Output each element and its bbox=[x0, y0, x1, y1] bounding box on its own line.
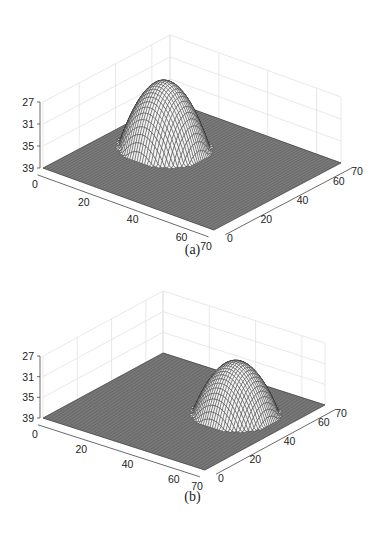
z-tick-label: 27 bbox=[22, 96, 34, 108]
z-tick-label: 39 bbox=[22, 162, 34, 174]
z-tick-label: 27 bbox=[22, 350, 34, 362]
z-tick-label: 31 bbox=[22, 118, 34, 130]
y-tick-label: 40 bbox=[284, 435, 296, 447]
x-tick-label: 60 bbox=[168, 473, 180, 485]
y-tick-label: 60 bbox=[318, 416, 330, 428]
x-tick-label: 20 bbox=[78, 196, 90, 208]
surface-plot-a: 27313539020406070020406070 bbox=[0, 0, 385, 265]
z-tick-label: 35 bbox=[22, 391, 34, 403]
z-tick-label: 39 bbox=[22, 412, 34, 424]
dome-mesh bbox=[115, 80, 214, 169]
y-tick-label: 70 bbox=[335, 407, 347, 419]
z-tick-label: 31 bbox=[22, 371, 34, 383]
x-tick-label: 20 bbox=[75, 443, 87, 455]
x-tick-label: 0 bbox=[32, 178, 38, 190]
y-tick-label: 60 bbox=[333, 175, 345, 187]
y-tick-label: 20 bbox=[260, 213, 272, 225]
y-tick-label: 70 bbox=[351, 165, 363, 177]
z-tick-label: 35 bbox=[22, 140, 34, 152]
y-tick-label: 40 bbox=[297, 194, 309, 206]
x-tick-label: 40 bbox=[127, 213, 139, 225]
x-tick-label: 40 bbox=[122, 458, 134, 470]
caption-a: (a) bbox=[0, 242, 385, 258]
x-tick-label: 0 bbox=[32, 428, 38, 440]
y-tick-label: 20 bbox=[249, 453, 261, 465]
panel-a: 27313539020406070020406070 (a) bbox=[0, 0, 385, 265]
y-tick-label: 0 bbox=[218, 472, 224, 484]
caption-b: (b) bbox=[0, 489, 385, 505]
panel-b: 27313539020406070020406070 (b) bbox=[0, 265, 385, 533]
